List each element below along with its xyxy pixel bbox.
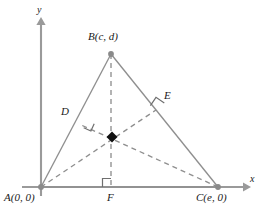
geometry-figure	[0, 0, 261, 212]
right-angle-mark-F	[103, 179, 112, 188]
vertex-label-C: C(e, 0)	[196, 192, 227, 203]
altitude-from-A-to-E	[41, 110, 156, 187]
right-angle-mark-E	[150, 97, 164, 105]
vertex-dot-A	[38, 184, 44, 190]
right-angle-marks-group	[84, 97, 165, 187]
altitude-from-C-to-D	[79, 124, 218, 187]
foot-label-D: D	[61, 106, 69, 117]
vertex-dots-group	[38, 51, 221, 190]
x-axis-label: x	[250, 174, 254, 184]
side-BC	[111, 54, 218, 187]
diagram-canvas: x y A(0, 0) B(c, d) C(e, 0) D E F	[0, 0, 261, 212]
axes-group	[22, 17, 251, 196]
vertex-dot-B	[108, 51, 114, 57]
foot-label-E: E	[164, 90, 171, 101]
altitudes-group	[41, 54, 218, 187]
vertex-label-A: A(0, 0)	[4, 192, 35, 203]
triangle-sides-group	[41, 54, 218, 187]
vertex-label-B: B(c, d)	[88, 31, 118, 42]
vertex-dot-C	[215, 184, 221, 190]
foot-label-F: F	[107, 192, 114, 203]
y-axis-arrowhead	[36, 17, 45, 25]
y-axis-label: y	[37, 5, 41, 15]
side-AB	[41, 54, 111, 187]
